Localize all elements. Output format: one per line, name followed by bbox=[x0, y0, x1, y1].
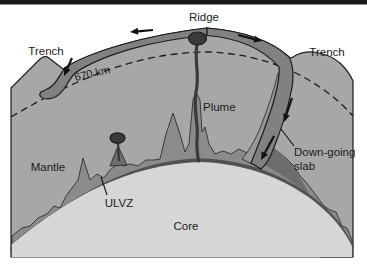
small-plume-head bbox=[110, 133, 125, 143]
mantle-label: Mantle bbox=[31, 161, 66, 173]
downgoing-slab-label-line1: Down-going bbox=[294, 146, 355, 158]
downgoing-slab-label-line2: slab bbox=[294, 160, 315, 172]
plume-label: Plume bbox=[203, 101, 236, 113]
mantle-convection-diagram: Ridge Trench Trench 670 km Plume Mantle … bbox=[0, 0, 367, 268]
core-label: Core bbox=[174, 220, 199, 232]
plume-head bbox=[189, 32, 207, 45]
plate-motion-arrow-left bbox=[130, 28, 153, 35]
figure-canvas: Ridge Trench Trench 670 km Plume Mantle … bbox=[0, 0, 367, 268]
top-rule bbox=[0, 0, 367, 5]
ridge-label: Ridge bbox=[189, 11, 219, 23]
trench-right-label: Trench bbox=[309, 46, 344, 58]
small-plume-stem bbox=[118, 143, 119, 160]
trench-left-label: Trench bbox=[28, 45, 63, 57]
ulvz-label: ULVZ bbox=[105, 197, 134, 209]
